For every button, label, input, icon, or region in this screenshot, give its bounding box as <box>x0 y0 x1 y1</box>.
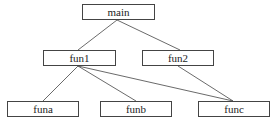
node-label: func <box>224 103 244 115</box>
node-label: funa <box>33 103 53 115</box>
edge-fun2-func <box>178 66 233 101</box>
edge-fun1-funb <box>78 66 136 101</box>
node-funb: funb <box>100 101 172 117</box>
edge-main-fun1 <box>78 20 117 50</box>
edge-fun1-func <box>78 66 233 101</box>
node-fun2: fun2 <box>142 50 214 66</box>
node-label: fun2 <box>168 52 188 64</box>
edge-main-fun2 <box>117 20 180 50</box>
node-main: main <box>82 4 155 20</box>
node-funa: funa <box>7 101 79 117</box>
node-label: fun1 <box>69 52 89 64</box>
node-label: funb <box>126 103 146 115</box>
node-fun1: fun1 <box>43 50 116 66</box>
node-func: func <box>198 101 270 117</box>
edge-fun1-funa <box>43 66 78 101</box>
node-label: main <box>108 6 130 18</box>
